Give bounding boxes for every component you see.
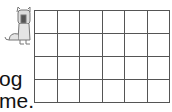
partial-text-line-1: og — [0, 68, 22, 89]
cartoon-dog-icon — [4, 6, 34, 48]
empty-grid — [34, 10, 170, 103]
partial-text-line-2: me. — [0, 90, 34, 111]
